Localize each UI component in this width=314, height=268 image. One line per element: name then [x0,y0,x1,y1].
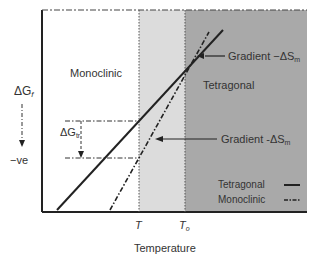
monoclinic-region-label: Monoclinic [70,67,122,79]
dgtr-label: ΔGtr [60,126,81,139]
legend-monoclinic-label: Monoclinic [218,194,265,205]
y-axis-label: ΔGf [14,84,34,99]
legend-tetragonal-label: Tetragonal [218,179,265,190]
negative-label: −ve [10,154,28,166]
x-axis-title: Temperature [134,242,196,254]
transition-band [139,10,185,212]
down-arrow-icon [19,140,25,147]
tetragonal-region-label: Tetragonal [203,79,254,91]
gibbs-energy-diagram: ΔGf −ve Monoclinic Tetragonal ΔGtr Gradi… [0,0,314,268]
tick-to-label: To [179,219,190,232]
lower-gradient-label: Gradient -ΔSm [221,133,291,146]
upper-gradient-label: Gradient −ΔSm [228,50,300,63]
dgtr-arrowhead-icon [78,151,84,158]
tick-t-label: T [135,219,143,231]
